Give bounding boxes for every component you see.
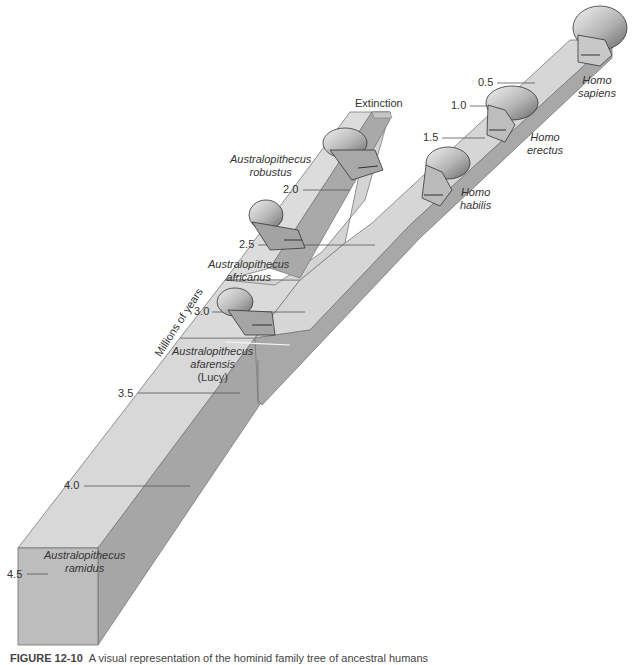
figure-caption: FIGURE 12-10A visual representation of t… <box>10 652 428 664</box>
genus: Australopithecus <box>172 345 253 358</box>
extinction-label: Extinction <box>355 97 403 110</box>
epithet: afarensis <box>172 358 253 371</box>
species-label-australopithecus-afarensis: Australopithecus afarensis (Lucy) <box>172 345 253 384</box>
hominid-evolution-diagram: 0.5 1.0 1.5 2.0 2.5 3.0 3.5 4.0 4.5 Exti… <box>0 0 635 665</box>
figure-label: FIGURE 12-10 <box>10 652 83 664</box>
tick-label-1-5: 1.5 <box>423 131 438 144</box>
genus: Homo <box>578 74 616 87</box>
species-label-australopithecus-robustus: Australopithecus robustus <box>230 153 311 179</box>
genus: Australopithecus <box>230 153 311 166</box>
species-label-australopithecus-africanus: Australopithecus africanus <box>208 258 289 284</box>
tick-label-2-5: 2.5 <box>239 238 254 251</box>
skull-homo-sapiens-icon <box>573 6 627 66</box>
genus: Homo <box>460 186 491 199</box>
genus: Australopithecus <box>208 258 289 271</box>
tick-label-3-0: 3.0 <box>194 305 209 318</box>
epithet: africanus <box>208 271 289 284</box>
tick-label-3-5: 3.5 <box>118 387 133 400</box>
species-label-homo-sapiens: Homo sapiens <box>578 74 616 100</box>
tick-label-1-0: 1.0 <box>451 99 466 112</box>
epithet: sapiens <box>578 87 616 100</box>
genus: Homo <box>527 131 563 144</box>
tick-label-4-5: 4.5 <box>7 568 22 581</box>
caption-text: A visual representation of the hominid f… <box>89 652 428 664</box>
tick-label-4-0: 4.0 <box>64 479 79 492</box>
genus: Australopithecus <box>44 549 125 562</box>
tick-label-0-5: 0.5 <box>478 76 493 89</box>
species-label-homo-erectus: Homo erectus <box>527 131 563 157</box>
species-label-homo-habilis: Homo habilis <box>460 186 491 212</box>
epithet: ramidus <box>44 562 125 575</box>
tick-label-2-0: 2.0 <box>283 183 298 196</box>
note: (Lucy) <box>172 371 253 384</box>
epithet: erectus <box>527 144 563 157</box>
epithet: habilis <box>460 199 491 212</box>
species-label-australopithecus-ramidus: Australopithecus ramidus <box>44 549 125 575</box>
epithet: robustus <box>230 166 311 179</box>
